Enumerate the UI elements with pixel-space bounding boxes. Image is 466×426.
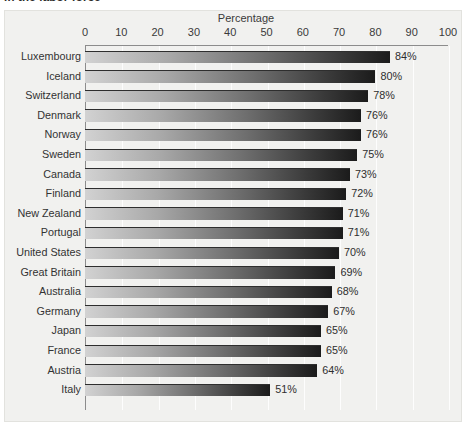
bar [85,168,350,181]
bar-value-label: 68% [337,285,359,297]
category-label: Great Britain [0,266,81,278]
x-tick-label: 40 [224,26,236,38]
bar [85,188,346,201]
bar-row: Switzerland78% [0,87,466,107]
bar [85,345,321,358]
category-label: Portugal [0,226,81,238]
category-label: Luxembourg [0,50,81,62]
category-label: Germany [0,305,81,317]
category-label: New Zealand [0,207,81,219]
category-label: Sweden [0,148,81,160]
bar [85,266,335,279]
bar [85,70,375,83]
x-axis-tick-labels: 0102030405060708090100 [0,26,466,42]
bar-row: United States70% [0,244,466,264]
bar [85,149,357,162]
x-tick-label: 60 [297,26,309,38]
bar-row: Finland72% [0,185,466,205]
bar-value-label: 67% [333,305,355,317]
x-tick-label: 10 [115,26,127,38]
bar-value-label: 71% [348,226,370,238]
bar-value-label: 76% [366,109,388,121]
bar-value-label: 65% [326,324,348,336]
category-label: United States [0,246,81,258]
x-tick-label: 30 [188,26,200,38]
bar-row: Austria64% [0,362,466,382]
bar-row: Japan65% [0,322,466,342]
bar [85,364,317,377]
bar-value-label: 65% [326,344,348,356]
bar [85,247,339,260]
bar [85,325,321,338]
x-tick-label: 70 [333,26,345,38]
x-tick-label: 20 [151,26,163,38]
bar [85,109,361,122]
bar-row: Germany67% [0,303,466,323]
bar-value-label: 69% [340,266,362,278]
category-label: France [0,344,81,356]
bar-value-label: 75% [362,148,384,160]
bar-row: Great Britain69% [0,264,466,284]
bar-value-label: 84% [395,50,417,62]
x-tick-label: 0 [82,26,88,38]
caption-fragment: in the labor force [4,0,164,3]
bar-value-label: 71% [348,207,370,219]
bar-row: Luxembourg84% [0,48,466,68]
bar [85,227,343,240]
bar-row: France65% [0,342,466,362]
bar-value-label: 51% [275,383,297,395]
bar [85,207,343,220]
category-label: Japan [0,324,81,336]
bar [85,305,328,318]
bar [85,286,332,299]
category-label: Denmark [0,109,81,121]
bar-row: Iceland80% [0,68,466,88]
x-tick-label: 80 [369,26,381,38]
bar-row: Australia68% [0,283,466,303]
bar-row: Italy51% [0,381,466,401]
category-label: Iceland [0,70,81,82]
bar-value-label: 64% [322,364,344,376]
x-tick-label: 100 [439,26,457,38]
bar [85,51,390,64]
x-tick-label: 50 [260,26,272,38]
category-label: Norway [0,128,81,140]
bar-row: Denmark76% [0,107,466,127]
bar [85,129,361,142]
category-label: Italy [0,383,81,395]
bar-row: Sweden75% [0,146,466,166]
bar-value-label: 80% [380,70,402,82]
bar-row: New Zealand71% [0,205,466,225]
bar-value-label: 78% [373,89,395,101]
x-axis-title: Percentage [0,12,466,24]
category-label: Finland [0,187,81,199]
bar-rows: Luxembourg84%Iceland80%Switzerland78%Den… [0,45,466,410]
category-label: Canada [0,168,81,180]
category-label: Australia [0,285,81,297]
bar-value-label: 73% [355,168,377,180]
bar [85,90,368,103]
category-label: Austria [0,364,81,376]
bar-value-label: 70% [344,246,366,258]
category-label: Switzerland [0,89,81,101]
bar-row: Portugal71% [0,224,466,244]
bar-row: Norway76% [0,126,466,146]
bar [85,384,270,397]
bar-value-label: 76% [366,128,388,140]
bar-row: Canada73% [0,166,466,186]
chart-figure: in the labor force Percentage 0102030405… [0,0,466,426]
bar-value-label: 72% [351,187,373,199]
x-tick-label: 90 [406,26,418,38]
